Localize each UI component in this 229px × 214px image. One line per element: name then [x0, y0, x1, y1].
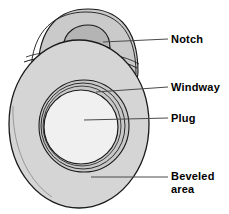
callout-label-notch: Notch — [171, 33, 203, 46]
whistle-head-diagram: Notch Windway Plug Beveled area — [0, 0, 229, 214]
callout-label-plug: Plug — [171, 112, 196, 125]
plug-shape — [44, 90, 118, 164]
callout-label-windway: Windway — [171, 81, 220, 94]
callout-label-beveled-area: Beveled area — [171, 170, 215, 196]
